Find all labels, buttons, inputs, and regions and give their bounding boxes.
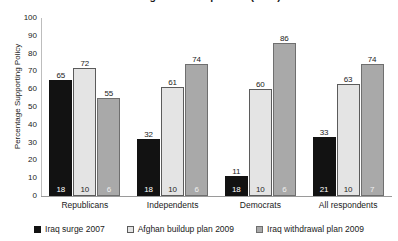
bar-value-label: 11 xyxy=(232,167,240,176)
legend-item: Afghan buildup plan 2009 xyxy=(127,224,234,234)
y-tick-label: 80 xyxy=(15,50,37,58)
y-tick-label: 30 xyxy=(15,139,37,147)
legend: Iraq surge 2007Afghan buildup plan 2009I… xyxy=(0,224,398,234)
bar-base-label: 18 xyxy=(138,185,159,194)
bar-value-label: 74 xyxy=(368,55,377,64)
y-tick-label: 20 xyxy=(15,156,37,164)
y-tick-label: 100 xyxy=(15,14,37,22)
bar-base-label: 6 xyxy=(274,185,295,194)
bar: 6010 xyxy=(249,89,272,196)
bar-value-label: 72 xyxy=(80,59,89,68)
bar: 6110 xyxy=(161,87,184,196)
bar-value-label: 86 xyxy=(280,34,289,43)
y-tick-label: 90 xyxy=(15,32,37,40)
category-label: Democrats xyxy=(217,200,305,210)
bar-base-label: 18 xyxy=(226,185,247,194)
bar-group: 11186010866 xyxy=(225,18,296,196)
legend-swatch-icon xyxy=(34,226,41,233)
y-tick-label: 70 xyxy=(15,67,37,75)
bar: 556 xyxy=(97,98,120,196)
legend-item: Iraq withdrawal plan 2009 xyxy=(256,224,364,234)
bar-value-label: 32 xyxy=(144,130,153,139)
bar-value-label: 55 xyxy=(104,89,113,98)
y-tick-label: 0 xyxy=(15,192,37,200)
bar: 866 xyxy=(273,43,296,196)
bar: 1118 xyxy=(225,176,248,196)
category-label: All respondents xyxy=(304,200,392,210)
category-label: Republicans xyxy=(41,200,129,210)
bar-base-label: 10 xyxy=(250,185,271,194)
bar-base-label: 7 xyxy=(362,185,383,194)
bar-base-label: 18 xyxy=(50,185,71,194)
bar-base-label: 10 xyxy=(338,185,359,194)
bar-group: 65187210556 xyxy=(49,18,120,196)
bar-value-label: 33 xyxy=(320,128,329,137)
bar-base-label: 6 xyxy=(98,185,119,194)
x-axis-line xyxy=(41,196,392,197)
y-tick-label: 10 xyxy=(15,174,37,182)
chart-title: and Afghan Buildup Plans (2008) xyxy=(0,0,398,2)
bar-value-label: 63 xyxy=(344,75,353,84)
bar-chart: and Afghan Buildup Plans (2008) Percenta… xyxy=(0,0,398,241)
bar-value-label: 74 xyxy=(192,55,201,64)
bar: 7210 xyxy=(73,68,96,196)
plot-area: 0102030405060708090100 65187210556Republ… xyxy=(41,18,392,196)
bar-base-label: 21 xyxy=(314,185,335,194)
y-axis-line xyxy=(41,18,42,196)
legend-label: Afghan buildup plan 2009 xyxy=(138,224,234,234)
bar: 747 xyxy=(361,64,384,196)
legend-swatch-icon xyxy=(256,226,263,233)
legend-item: Iraq surge 2007 xyxy=(34,224,105,234)
y-tick-label: 60 xyxy=(15,85,37,93)
bar-base-label: 10 xyxy=(74,185,95,194)
bar: 3218 xyxy=(137,139,160,196)
bar-value-label: 65 xyxy=(56,71,65,80)
y-tick-label: 50 xyxy=(15,103,37,111)
bar-base-label: 10 xyxy=(162,185,183,194)
legend-swatch-icon xyxy=(127,226,134,233)
legend-label: Iraq surge 2007 xyxy=(45,224,105,234)
legend-label: Iraq withdrawal plan 2009 xyxy=(267,224,364,234)
bar: 3321 xyxy=(313,137,336,196)
bar-value-label: 60 xyxy=(256,80,265,89)
category-label: Independents xyxy=(129,200,217,210)
y-tick-label: 40 xyxy=(15,121,37,129)
bar-group: 33216310747 xyxy=(313,18,384,196)
bar: 6518 xyxy=(49,80,72,196)
bar: 746 xyxy=(185,64,208,196)
bar-value-label: 61 xyxy=(168,78,177,87)
bar: 6310 xyxy=(337,84,360,196)
bar-group: 32186110746 xyxy=(137,18,208,196)
bar-base-label: 6 xyxy=(186,185,207,194)
